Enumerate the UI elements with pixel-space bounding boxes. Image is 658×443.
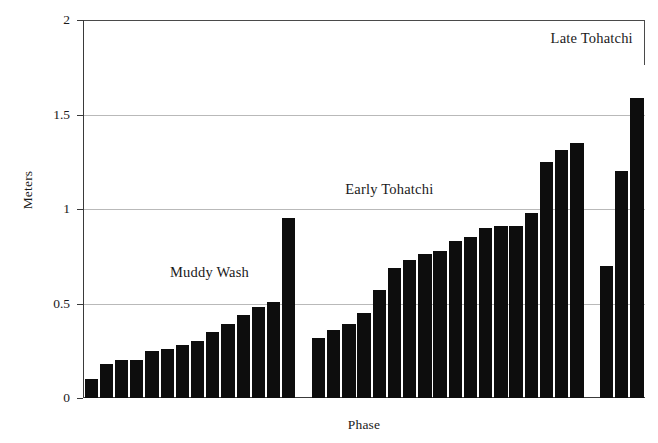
group-annotation: Early Tohatchi [345,181,433,198]
bar [403,260,416,398]
y-axis-label: Meters [20,150,36,230]
bar [206,332,219,398]
bar [357,313,370,398]
y-axis-tick-label: 0.5 [0,297,70,311]
y-axis-tick-label: 2 [0,13,70,27]
group-annotation: Late Tohatchi [551,30,633,47]
bar [145,351,158,398]
y-axis-tick-mark [77,398,83,399]
bar [570,143,583,398]
bar [221,324,234,398]
bar [630,98,643,399]
bar [479,228,492,398]
bar [540,162,553,398]
bar-chart: Meters 00.511.52 Muddy WashEarly Tohatch… [0,0,658,443]
bar [252,307,265,398]
bar [130,360,143,398]
bar [327,330,340,398]
bar [600,266,613,398]
bar [100,364,113,398]
bar [161,349,174,398]
bar [525,213,538,398]
bars-container [83,20,645,398]
bar [494,226,507,398]
bar [312,338,325,398]
bar [176,345,189,398]
bar [388,268,401,398]
bar [555,150,568,398]
bar [373,290,386,398]
bar [418,254,431,398]
bar [615,171,628,398]
y-axis-tick-label: 1 [0,202,70,216]
bar [449,241,462,398]
x-axis-label: Phase [83,417,645,433]
bar [433,251,446,398]
bar [237,315,250,398]
bar [342,324,355,398]
bar [115,360,128,398]
bar [464,237,477,398]
bar [85,379,98,398]
y-axis-tick-label: 1.5 [0,108,70,122]
bar [267,302,280,398]
y-axis-tick-label: 0 [0,391,70,405]
bar [282,218,295,398]
group-annotation: Muddy Wash [170,264,249,281]
bar [509,226,522,398]
bar [191,341,204,398]
